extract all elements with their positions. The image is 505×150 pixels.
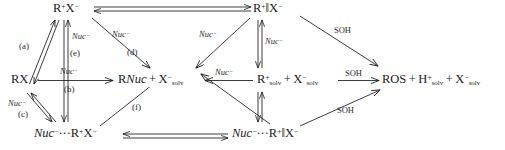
reagent-label-soh-upper-diagonal: SOH [334, 26, 351, 35]
species-nuc-solvent-separated-ion-pair: Nuc−···R+‖X− [231, 127, 299, 140]
step-label-d: (d) [127, 48, 138, 57]
species-substrate-rx: RX [10, 73, 29, 86]
reagent-label-nuc-right-horizontal: Nuc− [215, 68, 233, 77]
step-label-b: (b) [64, 85, 75, 94]
reagent-label-soh-horizontal: SOH [345, 69, 362, 78]
species-free-solvated-ions: R+solv + X−solv [256, 73, 319, 87]
reagent-label-soh-lower-diagonal: SOH [337, 106, 354, 115]
species-nuc-contact-ion-pair: Nuc−···R+X− [33, 127, 98, 140]
step-label-c: (c) [18, 110, 28, 119]
species-contact-ion-pair: R+X− [52, 2, 80, 15]
reagent-label-nuc-e: Nuc− [72, 32, 90, 41]
reagent-label-nuc-right-vertical: Nuc− [265, 37, 283, 46]
reagent-label-nuc-c: Nuc− [8, 99, 26, 108]
species-elimination-solvolysis-product: ROS + H+solv + X−solv [381, 73, 481, 87]
step-label-a: (a) [19, 42, 29, 51]
species-solvent-separated-ion-pair: R+‖X− [252, 2, 283, 15]
reaction-scheme-diagram: RNuc + X-solv (horizontal) === --> RNuc … [0, 0, 505, 150]
reagent-label-nuc-d: Nuc− [112, 30, 130, 39]
species-substitution-product: RNuc + X−solv [117, 73, 184, 87]
reagent-label-nuc-b: Nuc− [60, 67, 78, 76]
step-label-e: (e) [70, 49, 80, 58]
reagent-label-nuc-right-diagonal: Nuc− [199, 30, 217, 39]
step-label-f: (f) [132, 103, 141, 112]
